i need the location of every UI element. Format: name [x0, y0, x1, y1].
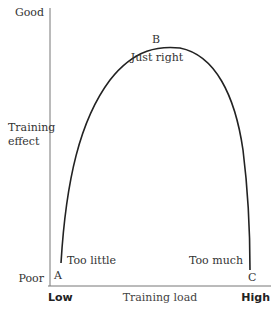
y-axis-label-line2: effect: [8, 135, 40, 148]
training-effect-curve: [61, 47, 250, 270]
y-axis-label-line1: Training: [8, 121, 55, 134]
x-axis-label: Training load: [123, 291, 198, 304]
point-a-label: A: [53, 269, 63, 282]
point-a-caption: Too little: [67, 254, 116, 267]
point-c-label: C: [248, 271, 256, 284]
point-b-caption: Just right: [130, 51, 184, 64]
y-axis-bottom-label: Poor: [19, 272, 45, 285]
point-b-label: B: [152, 33, 160, 46]
x-axis-right-label: High: [241, 291, 270, 304]
point-c-caption: Too much: [189, 254, 243, 267]
y-axis-top-label: Good: [15, 6, 44, 19]
x-axis-left-label: Low: [48, 291, 73, 304]
training-load-diagram: Good Training effect Poor Low Training l…: [0, 0, 274, 312]
